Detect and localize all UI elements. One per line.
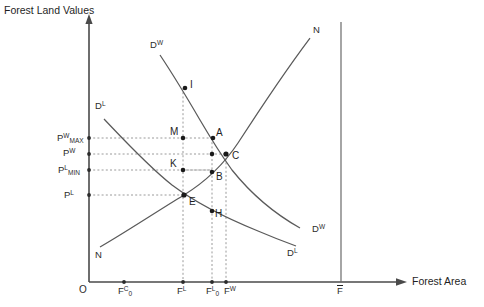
x-axis-title: Forest Area: [412, 275, 466, 287]
x-tick-label-fbar: F: [337, 286, 343, 296]
point-label-A: A: [216, 127, 223, 138]
curve-label-supply-n-end: N: [95, 250, 102, 260]
y-tick-label-pl: PL: [64, 190, 74, 200]
point-label-I: I: [190, 79, 193, 90]
point-B: [210, 170, 215, 175]
y-axis-title: Forest Land Values: [4, 4, 94, 16]
guide-lines: [89, 88, 226, 282]
point-W: [210, 152, 215, 157]
point-label-K: K: [170, 158, 177, 169]
x-tick-label-f0l: FL0: [206, 286, 219, 297]
point-I: [183, 86, 188, 91]
curve-label-demand-wood-top: DW: [150, 40, 163, 50]
origin-label: O: [79, 285, 87, 295]
point-C: [223, 151, 228, 156]
point-label-C: C: [232, 150, 239, 161]
point-H: [210, 209, 215, 214]
point-E: [181, 192, 186, 197]
curve-label-demand-land-end: DL: [287, 248, 298, 258]
x-axis-arrow: [396, 278, 407, 286]
point-A: [211, 136, 216, 141]
point-label-B: B: [216, 171, 223, 182]
x-tick-label-f0c: FC0: [118, 286, 132, 297]
point-label-E: E: [189, 196, 196, 207]
point-label-M: M: [170, 126, 178, 137]
point-K: [181, 168, 186, 173]
curve-label-demand-wood-end: DW: [312, 224, 325, 234]
x-tick-label-fl: FL: [177, 286, 186, 296]
curve-supply-n: [100, 38, 310, 247]
point-label-H: H: [215, 208, 222, 219]
curve-label-supply-n-top: N: [313, 25, 320, 35]
x-tick-label-fw: FW: [224, 286, 236, 296]
y-tick-label-pw-max: PWMAX: [57, 133, 84, 144]
y-tick-label-pl-min: PLMIN: [58, 165, 80, 176]
curves: [100, 38, 310, 247]
y-tick-label-pw: PW: [63, 148, 75, 158]
curve-label-demand-land-top: DL: [95, 101, 106, 111]
data-points: [181, 86, 229, 214]
point-M: [181, 136, 186, 141]
